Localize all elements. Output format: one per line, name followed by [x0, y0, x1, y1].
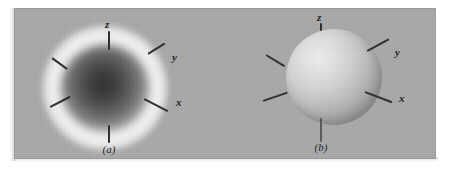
- axis-label-y: y: [395, 47, 400, 58]
- panel-caption-a: (a): [89, 144, 129, 155]
- sphere-body: [286, 29, 382, 125]
- axis-line-z-positive: [108, 31, 110, 50]
- axis-label-z: z: [317, 12, 321, 23]
- axis-line-z-negative: [320, 118, 322, 142]
- panel-caption-b: (b): [301, 142, 341, 153]
- axis-label-z: z: [105, 19, 109, 30]
- axis-label-x: x: [176, 97, 182, 108]
- axis-tick-y-negative: [265, 54, 285, 67]
- electron-cloud-graphic: [43, 26, 167, 150]
- electron-cloud-core: [62, 46, 148, 130]
- figure-root: z y x (a) z y x (b): [0, 0, 450, 171]
- figure-plate: z y x (a) z y x (b): [14, 8, 436, 159]
- panel-a: z y x (a): [14, 8, 225, 159]
- axis-line-z-negative: [108, 125, 110, 143]
- boundary-surface-sphere-graphic: [286, 29, 382, 125]
- axis-tick-x-negative: [263, 92, 288, 102]
- axis-label-x: x: [399, 93, 405, 104]
- panel-b: z y x (b): [225, 8, 436, 159]
- axis-label-y: y: [172, 52, 177, 63]
